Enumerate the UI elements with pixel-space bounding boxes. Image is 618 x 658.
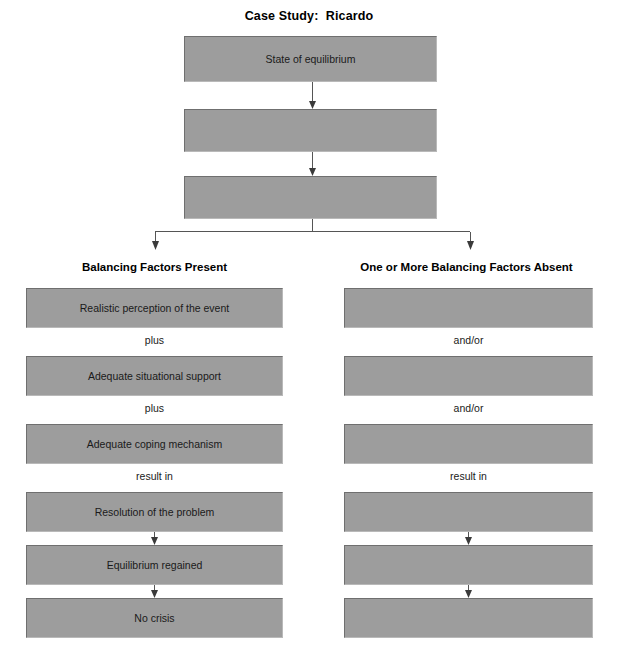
left-box-realistic-perception: Realistic perception of the event xyxy=(26,288,283,328)
left-box-adequate-situational-support: Adequate situational support xyxy=(26,356,283,396)
page-title: Case Study: Ricardo xyxy=(0,9,618,23)
column-header-balancing-factors-present: Balancing Factors Present xyxy=(26,261,283,273)
left-box-label: Equilibrium regained xyxy=(107,559,203,572)
diagram-canvas: Case Study: Ricardo State of equilibrium… xyxy=(0,0,618,658)
stem-box-blank-2 xyxy=(184,176,437,219)
left-box-label: Adequate coping mechanism xyxy=(87,438,222,451)
left-box-resolution-of-the-problem: Resolution of the problem xyxy=(26,492,283,532)
left-connector-result-in: result in xyxy=(26,470,283,482)
stem-box-state-of-equilibrium: State of equilibrium xyxy=(184,36,437,82)
right-box-blank-1 xyxy=(344,288,593,328)
right-box-blank-3 xyxy=(344,424,593,464)
right-box-blank-5 xyxy=(344,545,593,585)
left-box-label: Resolution of the problem xyxy=(95,506,215,519)
right-connector-and-or-1: and/or xyxy=(344,334,593,346)
left-box-label: No crisis xyxy=(134,612,174,625)
right-box-blank-2 xyxy=(344,356,593,396)
stem-box-blank-1 xyxy=(184,109,437,152)
left-connector-plus-1: plus xyxy=(26,334,283,346)
right-box-blank-4 xyxy=(344,492,593,532)
column-header-balancing-factors-absent: One or More Balancing Factors Absent xyxy=(338,261,595,273)
left-box-label: Realistic perception of the event xyxy=(80,302,229,315)
left-box-adequate-coping-mechanism: Adequate coping mechanism xyxy=(26,424,283,464)
stem-box-label: State of equilibrium xyxy=(266,53,356,66)
left-connector-plus-2: plus xyxy=(26,402,283,414)
left-box-equilibrium-regained: Equilibrium regained xyxy=(26,545,283,585)
left-box-no-crisis: No crisis xyxy=(26,598,283,638)
left-box-label: Adequate situational support xyxy=(88,370,221,383)
right-box-blank-6 xyxy=(344,598,593,638)
right-connector-and-or-2: and/or xyxy=(344,402,593,414)
right-connector-result-in: result in xyxy=(344,470,593,482)
